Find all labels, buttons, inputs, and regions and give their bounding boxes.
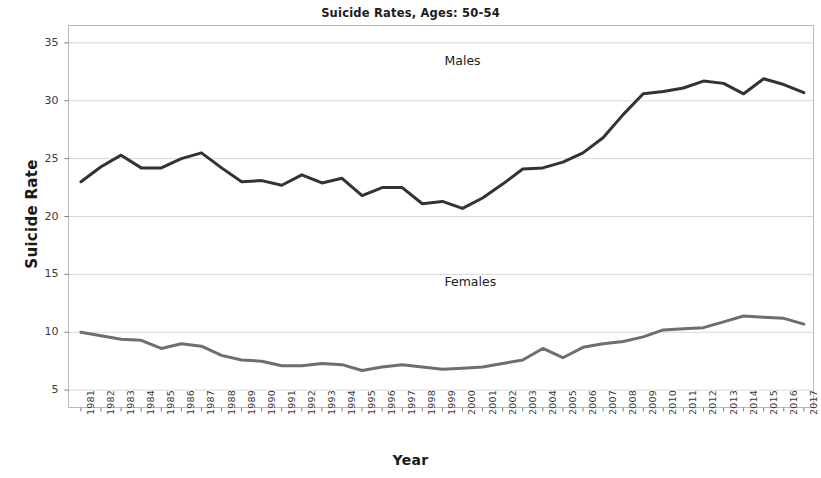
x-tick-label: 2015 bbox=[768, 390, 779, 415]
x-tick-label: 1991 bbox=[286, 390, 297, 415]
x-tick-label: 2008 bbox=[627, 390, 638, 415]
x-tick-label: 2000 bbox=[466, 390, 477, 415]
y-tick-label: 5 bbox=[19, 383, 59, 396]
series-line-females bbox=[81, 316, 804, 370]
y-tick-label: 10 bbox=[19, 325, 59, 338]
y-tick-label: 15 bbox=[19, 267, 59, 280]
x-tick-label: 1988 bbox=[226, 390, 237, 415]
x-tick-label: 2012 bbox=[707, 390, 718, 415]
x-tick-label: 2002 bbox=[507, 390, 518, 415]
x-tick-label: 1993 bbox=[326, 390, 337, 415]
x-tick-label: 2013 bbox=[728, 390, 739, 415]
chart-figure: Suicide Rates, Ages: 50-54 Suicide Rate … bbox=[0, 0, 821, 478]
x-tick-label: 1996 bbox=[386, 390, 397, 415]
x-tick-label: 2010 bbox=[667, 390, 678, 415]
x-tick-label: 1982 bbox=[105, 390, 116, 415]
x-tick-label: 2006 bbox=[587, 390, 598, 415]
x-tick-label: 1986 bbox=[185, 390, 196, 415]
gridlines bbox=[69, 43, 814, 390]
x-tick-label: 1983 bbox=[125, 390, 136, 415]
x-tick-label: 1997 bbox=[406, 390, 417, 415]
x-tick-label: 2004 bbox=[547, 390, 558, 415]
series-annotation-males: Males bbox=[444, 53, 480, 68]
series-lines bbox=[81, 79, 804, 371]
x-tick-label: 2003 bbox=[527, 390, 538, 415]
x-tick-label: 2011 bbox=[687, 390, 698, 415]
x-tick-label: 2005 bbox=[567, 390, 578, 415]
y-tick-label: 30 bbox=[19, 94, 59, 107]
x-tick-label: 1987 bbox=[205, 390, 216, 415]
x-tick-label: 2009 bbox=[647, 390, 658, 415]
x-tick-label: 1984 bbox=[145, 390, 156, 415]
x-tick-label: 1998 bbox=[426, 390, 437, 415]
x-tick-label: 1981 bbox=[85, 390, 96, 415]
x-tick-label: 1994 bbox=[346, 390, 357, 415]
series-annotation-females: Females bbox=[444, 274, 496, 289]
x-tick-label: 2017 bbox=[808, 390, 819, 415]
x-tick-label: 1985 bbox=[165, 390, 176, 415]
x-tick-label: 2016 bbox=[788, 390, 799, 415]
x-tick-label: 1995 bbox=[366, 390, 377, 415]
y-tick-label: 25 bbox=[19, 152, 59, 165]
series-line-males bbox=[81, 79, 804, 209]
x-tick-label: 1989 bbox=[246, 390, 257, 415]
y-tick-label: 20 bbox=[19, 210, 59, 223]
x-tick-label: 2001 bbox=[487, 390, 498, 415]
x-tick-label: 2007 bbox=[607, 390, 618, 415]
x-tick-label: 1992 bbox=[306, 390, 317, 415]
x-tick-label: 1990 bbox=[266, 390, 277, 415]
axis-tickmarks bbox=[65, 43, 804, 412]
x-tick-label: 1999 bbox=[446, 390, 457, 415]
x-tick-label: 2014 bbox=[748, 390, 759, 415]
y-tick-label: 35 bbox=[19, 36, 59, 49]
